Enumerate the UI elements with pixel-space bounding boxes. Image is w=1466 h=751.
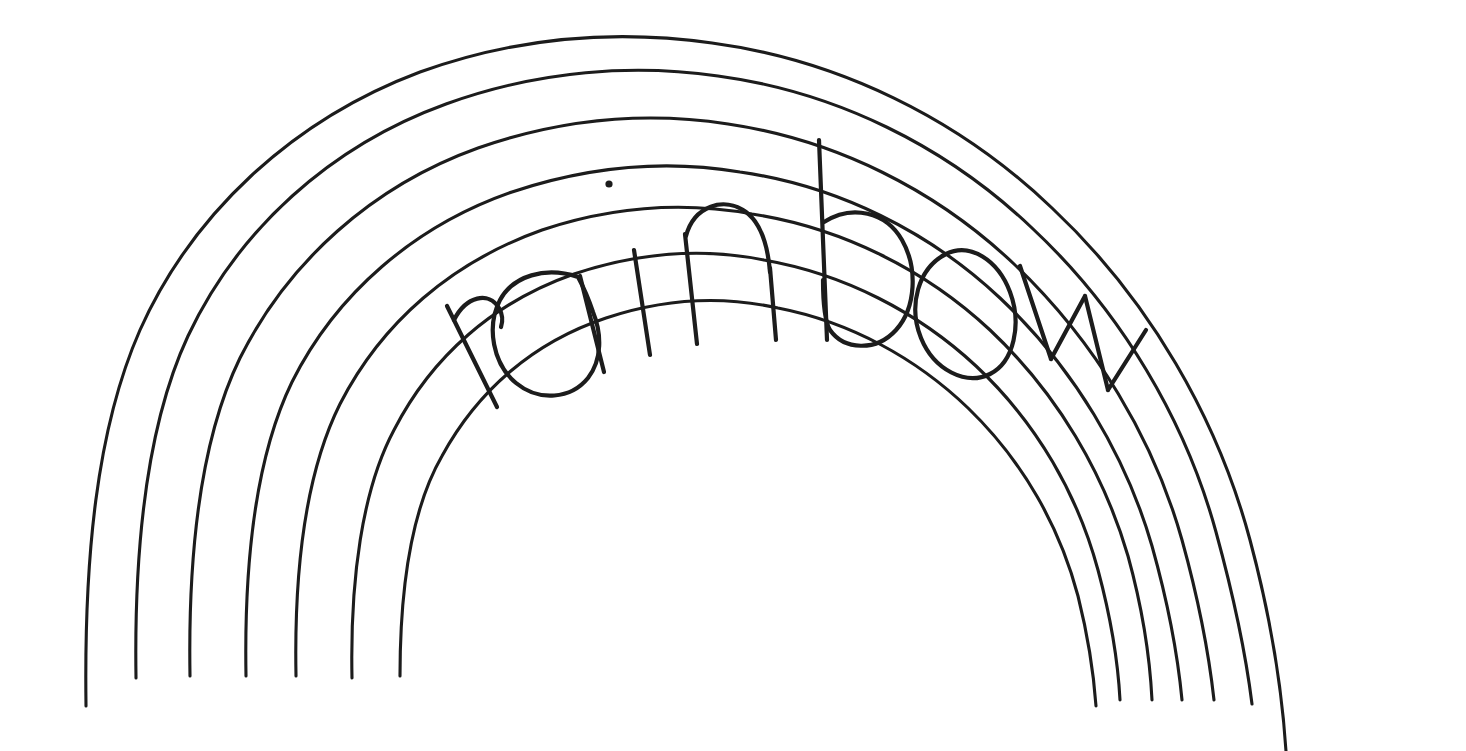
arc-6-letter-baseline [352,253,1120,700]
letter-a [493,273,604,396]
letter-a-stem [580,276,604,372]
letter-w [1020,266,1146,390]
letter-b [819,140,913,346]
rainbow-arc-group [86,37,1286,751]
ink-dot [605,180,612,187]
letter-i-stem [634,250,650,355]
letter-n-right-stem [770,268,776,340]
letter-i [634,250,650,355]
letter-n [685,204,776,344]
arc-inner-7 [400,301,1096,706]
arc-outer-1 [86,37,1286,751]
letter-n-left-stem [685,234,697,344]
artwork-canvas: Hand-drawn rainbow sketch with the word … [0,0,1466,751]
arc-4-cap-line [246,166,1182,700]
rainbow-drawing [0,0,1466,751]
letter-w-stroke-2 [1051,296,1085,359]
letter-w-stroke-1 [1020,266,1051,359]
arc-3 [190,118,1214,700]
